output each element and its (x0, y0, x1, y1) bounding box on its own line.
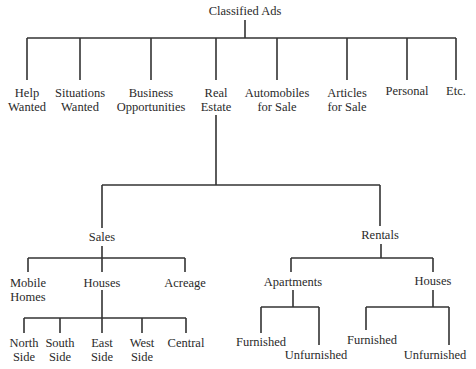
category-personal: Personal (385, 84, 428, 98)
node-houses-unfurnished: Unfurnished (404, 348, 467, 362)
node-rentals: Rentals (361, 228, 399, 242)
label-line: Estate (201, 100, 232, 114)
label-line: South (45, 336, 74, 350)
label-line: Situations (55, 86, 105, 100)
category-automobiles: Automobilesfor Sale (245, 86, 310, 114)
node-mobile-homes: MobileHomes (10, 276, 46, 304)
label-line: Unfurnished (285, 348, 348, 362)
category-real-estate: RealEstate (201, 86, 232, 114)
label-line: Homes (10, 290, 46, 304)
label-line: Acreage (164, 276, 206, 290)
label-line: Houses (84, 276, 121, 290)
label-line: West (130, 336, 155, 350)
category-etc: Etc. (446, 84, 466, 98)
node-apartments: Apartments (264, 275, 322, 289)
node-south-side: SouthSide (45, 336, 74, 364)
label-line: Rentals (361, 228, 399, 242)
node-rental-houses: Houses (415, 274, 452, 288)
label-line: Articles (327, 86, 367, 100)
label-line: Side (130, 350, 155, 364)
category-situations-wanted: SituationsWanted (55, 86, 105, 114)
label-line: Help (8, 86, 46, 100)
node-north-side: NorthSide (9, 336, 38, 364)
node-houses-furnished: Furnished (347, 333, 397, 347)
node-central: Central (168, 336, 205, 350)
label-line: Furnished (236, 335, 286, 349)
label-line: Opportunities (117, 100, 186, 114)
label-line: East (91, 336, 113, 350)
node-acreage: Acreage (164, 276, 206, 290)
label-line: Real (201, 86, 232, 100)
label-line: Etc. (446, 84, 466, 98)
root-label: Classified Ads (209, 4, 282, 18)
root-node: Classified Ads (209, 4, 282, 18)
label-line: for Sale (245, 100, 310, 114)
category-articles: Articlesfor Sale (327, 86, 367, 114)
label-line: Mobile (10, 276, 46, 290)
label-line: Personal (385, 84, 428, 98)
node-east-side: EastSide (91, 336, 113, 364)
label-line: Apartments (264, 275, 322, 289)
category-help-wanted: HelpWanted (8, 86, 46, 114)
label-line: Wanted (8, 100, 46, 114)
label-line: Wanted (55, 100, 105, 114)
label-line: North (9, 336, 38, 350)
label-line: Central (168, 336, 205, 350)
node-apartments-furnished: Furnished (236, 335, 286, 349)
category-business-opportunities: BusinessOpportunities (117, 86, 186, 114)
label-line: Side (45, 350, 74, 364)
label-line: Automobiles (245, 86, 310, 100)
tree-connectors (0, 0, 476, 369)
label-line: Side (91, 350, 113, 364)
node-west-side: WestSide (130, 336, 155, 364)
label-line: for Sale (327, 100, 367, 114)
label-line: Unfurnished (404, 348, 467, 362)
label-line: Side (9, 350, 38, 364)
label-line: Furnished (347, 333, 397, 347)
label-line: Sales (89, 230, 115, 244)
node-sales-houses: Houses (84, 276, 121, 290)
node-apartments-unfurnished: Unfurnished (285, 348, 348, 362)
label-line: Houses (415, 274, 452, 288)
node-sales: Sales (89, 230, 115, 244)
label-line: Business (117, 86, 186, 100)
